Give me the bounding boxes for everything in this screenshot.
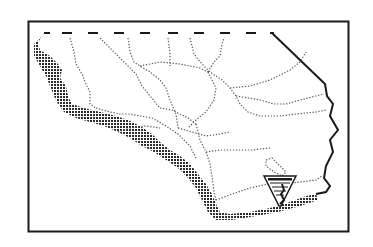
map-canvas [0, 0, 373, 247]
map-figure: Southern California region map [0, 0, 373, 247]
small-area-boundary [266, 158, 286, 176]
blm-shield-icon [264, 176, 296, 206]
state-boundary-east [272, 33, 338, 194]
